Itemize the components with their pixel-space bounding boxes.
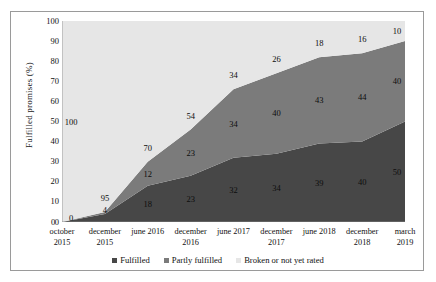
legend-label: Broken or not yet rated bbox=[244, 255, 324, 265]
axis-origin-label: 0 bbox=[51, 218, 55, 227]
data-label: 44 bbox=[358, 93, 367, 102]
x-tick-line-2: 2019 bbox=[368, 238, 436, 249]
data-label: 100 bbox=[65, 117, 78, 126]
y-axis-tick-100: 100 bbox=[46, 17, 59, 26]
x-tick-line-2: 2017 bbox=[239, 238, 313, 249]
legend-label: Partly fulfilled bbox=[172, 255, 222, 265]
data-label: 26 bbox=[272, 55, 281, 64]
y-axis-tick-20: 20 bbox=[51, 177, 60, 186]
plot-area: 0418233234394050122334404344401009570543… bbox=[62, 21, 405, 222]
y-axis-tick-60: 60 bbox=[51, 97, 60, 106]
data-label: 4 bbox=[103, 205, 107, 214]
legend-label: Fulfilled bbox=[120, 255, 150, 265]
data-label: 18 bbox=[144, 199, 153, 208]
data-label: 50 bbox=[393, 167, 402, 176]
data-label: 32 bbox=[229, 185, 238, 194]
data-label: 16 bbox=[358, 35, 367, 44]
y-axis-tick-10: 10 bbox=[51, 197, 60, 206]
data-label: 34 bbox=[272, 183, 281, 192]
data-label: 40 bbox=[272, 109, 281, 118]
data-label: 54 bbox=[186, 111, 195, 120]
x-axis-tick-march-2019: march2019 bbox=[368, 227, 436, 248]
chart-container: Fulfilled promises (%) 01020304050607080… bbox=[0, 0, 436, 282]
y-axis-tick-80: 80 bbox=[51, 57, 60, 66]
y-axis-tick-0: 0 bbox=[55, 218, 59, 227]
y-axis-tick-40: 40 bbox=[51, 137, 60, 146]
y-axis-tick-90: 90 bbox=[51, 37, 60, 46]
data-label: 23 bbox=[186, 148, 195, 157]
data-label: 0 bbox=[69, 214, 73, 223]
y-axis-tick-30: 30 bbox=[51, 157, 60, 166]
legend-swatch-icon bbox=[112, 258, 117, 263]
data-label: 12 bbox=[144, 169, 153, 178]
y-axis-tick-70: 70 bbox=[51, 77, 60, 86]
data-label: 70 bbox=[144, 143, 153, 152]
data-label: 18 bbox=[315, 39, 324, 48]
data-label: 40 bbox=[358, 177, 367, 186]
legend-item-partly-fulfilled[interactable]: Partly fulfilled bbox=[164, 255, 222, 265]
data-label: 95 bbox=[101, 193, 110, 202]
data-label: 34 bbox=[229, 71, 238, 80]
chart-legend: FulfilledPartly fulfilledBroken or not y… bbox=[11, 255, 425, 265]
data-label: 34 bbox=[229, 119, 238, 128]
legend-swatch-icon bbox=[164, 258, 169, 263]
legend-swatch-icon bbox=[236, 258, 241, 263]
y-axis-tick-labels: 0102030405060708090100 bbox=[29, 12, 61, 228]
legend-item-broken-or-not-yet-rated[interactable]: Broken or not yet rated bbox=[236, 255, 324, 265]
x-tick-line-2: 2015 bbox=[68, 238, 142, 249]
data-label: 40 bbox=[393, 77, 402, 86]
legend-item-fulfilled[interactable]: Fulfilled bbox=[112, 255, 150, 265]
data-label: 23 bbox=[186, 194, 195, 203]
y-axis-tick-50: 50 bbox=[51, 117, 60, 126]
x-tick-line-1: march bbox=[395, 227, 416, 236]
data-label: 43 bbox=[315, 96, 324, 105]
x-tick-line-2: 2016 bbox=[154, 238, 228, 249]
data-label: 10 bbox=[393, 27, 402, 36]
data-label: 39 bbox=[315, 178, 324, 187]
chart-frame: Fulfilled promises (%) 01020304050607080… bbox=[10, 11, 424, 271]
